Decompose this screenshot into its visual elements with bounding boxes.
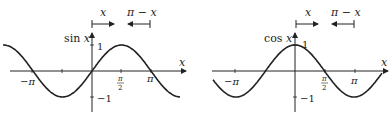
arrow-pi-minus-x-label: π − x <box>330 6 361 19</box>
xtick-pi-half-num: π <box>117 75 123 83</box>
arrow-pi-minus-x-label: π − x <box>126 6 157 19</box>
trig-figure: sin x x 1 −1 −π π 2 π x π − x cos x x 1 … <box>0 0 390 115</box>
svg-text:2: 2 <box>118 84 122 92</box>
xtick-pi-half-num: π <box>321 75 327 83</box>
svg-text:2: 2 <box>322 84 326 92</box>
xlabel-sin: x <box>179 56 186 69</box>
xtick-neg-pi: −π <box>20 76 35 87</box>
sine-plot: sin x x 1 −1 −π π 2 π x π − x <box>3 6 186 112</box>
ytick-1: 1 <box>97 41 103 52</box>
cosine-plot: cos x x 1 −1 −π π 2 π x π − x <box>212 6 388 112</box>
ytick-neg1: −1 <box>300 93 315 104</box>
arrow-x-label: x <box>100 6 107 19</box>
arrow-x-label: x <box>305 6 312 19</box>
ylabel-sin: sin x <box>64 32 91 45</box>
xtick-pi: π <box>350 75 358 86</box>
xlabel-cos: x <box>381 56 388 69</box>
ylabel-cos: cos x <box>264 32 293 45</box>
xtick-neg-pi: −π <box>224 76 239 87</box>
xtick-pi: π <box>146 73 154 84</box>
ytick-1: 1 <box>302 39 308 50</box>
ytick-neg1: −1 <box>97 93 112 104</box>
